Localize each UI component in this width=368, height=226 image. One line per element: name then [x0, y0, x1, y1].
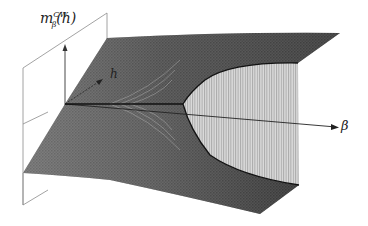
surface-figure — [0, 0, 368, 226]
h-axis-label: h — [110, 67, 118, 81]
beta-axis-label: β — [341, 118, 349, 133]
m-axis-label: mCWβ(h) — [40, 10, 76, 29]
h-argument: (h) — [56, 10, 76, 26]
